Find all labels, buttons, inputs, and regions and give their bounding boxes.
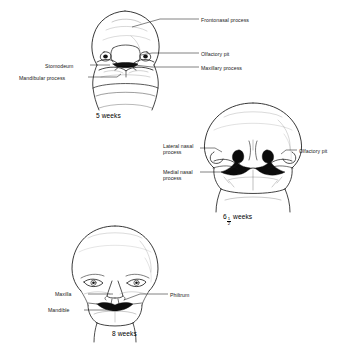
- olfactory-pit-right-fill: [143, 55, 148, 59]
- olfactory-pit-left-2: [232, 150, 243, 163]
- caption-5-weeks: 5 weeks: [96, 112, 121, 119]
- fraction-denominator: 2: [227, 222, 231, 226]
- pupil-right: [135, 282, 138, 285]
- label-philtrum: Philtrum: [170, 292, 189, 298]
- label-stomodeum: Stomodeum: [45, 63, 73, 69]
- olfactory-pit-right-2: [262, 150, 273, 163]
- caption-6-5-weeks: 612 weeks: [223, 213, 252, 226]
- label-medial-nasal-process: Medial nasal process: [163, 169, 199, 181]
- caption-fraction: 12: [227, 217, 231, 227]
- olfactory-pit-left-fill: [103, 55, 108, 59]
- label-mandible: Mandible: [48, 307, 69, 313]
- label-olfactory-pit-6-5-weeks: Olfactory pit: [299, 148, 327, 154]
- label-lateral-nasal-process: Lateral nasal process: [163, 143, 199, 155]
- label-mandibular-process: Mandibular process: [19, 75, 65, 81]
- pupil-left: [92, 282, 95, 285]
- label-maxillary-process: Maxillary process: [201, 65, 242, 71]
- label-olfactory-pit-5-weeks: Olfactory pit: [201, 51, 229, 57]
- label-maxilla: Maxilla: [55, 291, 72, 297]
- caption-unit: weeks: [233, 213, 252, 220]
- label-frontonasal-process: Frontonasal process: [201, 17, 249, 23]
- caption-8-weeks: 8 weeks: [112, 330, 137, 337]
